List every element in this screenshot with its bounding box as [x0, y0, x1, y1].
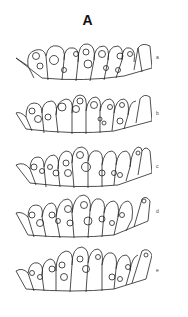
tissue-drawing-d	[14, 193, 152, 239]
drawing-label-b: b	[156, 110, 159, 116]
tissue-drawing-c	[14, 143, 152, 189]
epithelium-sketch-d	[14, 193, 152, 239]
epithelium-sketch-c	[14, 143, 152, 189]
panel-label: A	[0, 12, 175, 28]
drawing-label-a: a	[156, 54, 159, 60]
tissue-drawing-a	[14, 40, 152, 82]
epithelium-sketch-a	[14, 40, 152, 82]
epithelium-sketch-e	[14, 243, 152, 293]
epithelium-sketch-b	[14, 91, 152, 135]
tissue-drawing-b	[14, 91, 152, 135]
tissue-drawing-e	[14, 243, 152, 293]
drawing-label-e: e	[156, 267, 159, 273]
drawing-label-c: c	[156, 163, 159, 169]
drawing-label-d: d	[156, 208, 159, 214]
